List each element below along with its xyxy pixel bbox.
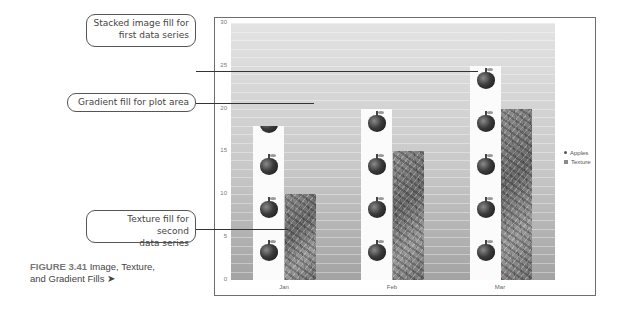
- bar-texture-jan: [285, 194, 316, 280]
- legend-swatch-apples: [564, 151, 567, 154]
- apple-icon: [477, 244, 495, 261]
- y-tick-5: 5: [213, 233, 227, 239]
- apple-icon: [260, 244, 278, 261]
- leader-line-texture: [196, 229, 288, 230]
- apple-icon: [477, 72, 495, 89]
- bar-apples-mar: [470, 66, 501, 280]
- x-label-feb: Feb: [372, 284, 412, 290]
- bar-texture-mar: [501, 109, 532, 280]
- bar-apples-feb: [361, 109, 392, 280]
- callout-text: Texture fill for second: [93, 213, 189, 237]
- legend-item-texture: Texture: [564, 157, 591, 166]
- arrow-icon: ➤: [107, 273, 115, 284]
- x-label-mar: Mar: [480, 284, 520, 290]
- bar-apples-jan: [253, 126, 284, 280]
- y-tick-15: 15: [213, 147, 227, 153]
- y-tick-0: 0: [213, 276, 227, 282]
- callout-text: data series: [93, 237, 189, 249]
- x-label-jan: Jan: [264, 284, 304, 290]
- apple-icon: [260, 158, 278, 175]
- y-tick-10: 10: [213, 190, 227, 196]
- caption-text-line2: and Gradient Fills: [30, 273, 104, 284]
- y-tick-30: 30: [213, 19, 227, 25]
- apple-icon: [260, 126, 278, 133]
- caption-text-line1: Image, Texture,: [87, 261, 155, 272]
- apple-icon: [477, 201, 495, 218]
- legend-label-texture: Texture: [571, 159, 591, 165]
- legend-item-apples: Apples: [564, 148, 591, 157]
- apple-icon: [477, 115, 495, 132]
- legend: Apples Texture: [564, 148, 591, 166]
- figure-label: FIGURE 3.41: [30, 261, 87, 272]
- apple-icon: [477, 158, 495, 175]
- legend-label-apples: Apples: [570, 150, 588, 156]
- leader-line-gradient: [196, 103, 314, 104]
- callout-text: Stacked image fill for: [93, 17, 189, 29]
- bar-texture-feb: [393, 151, 424, 280]
- apple-icon: [368, 244, 386, 261]
- apple-icon: [260, 201, 278, 218]
- y-tick-20: 20: [213, 105, 227, 111]
- legend-swatch-texture: [564, 160, 568, 164]
- callout-texture: Texture fill for second data series: [86, 210, 196, 243]
- apple-icon: [368, 158, 386, 175]
- apple-icon: [368, 201, 386, 218]
- callout-gradient: Gradient fill for plot area: [67, 93, 196, 112]
- leader-line-stacked: [196, 71, 478, 72]
- y-tick-25: 25: [213, 62, 227, 68]
- callout-stacked-image: Stacked image fill for first data series: [86, 14, 196, 47]
- figure-caption: FIGURE 3.41 Image, Texture, and Gradient…: [30, 261, 155, 285]
- callout-text: Gradient fill for plot area: [74, 96, 189, 108]
- apple-icon: [368, 115, 386, 132]
- callout-text: first data series: [93, 29, 189, 41]
